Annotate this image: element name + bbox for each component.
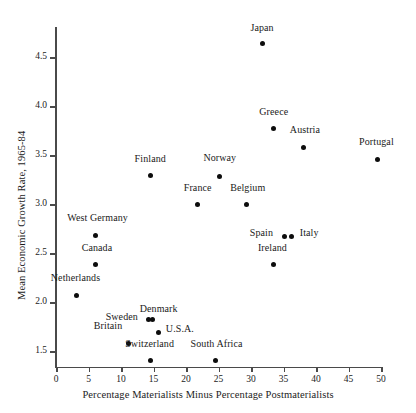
point-label-south-africa: South Africa: [191, 338, 243, 349]
x-tick-label: 35: [272, 374, 296, 384]
x-tick-label: 25: [207, 374, 231, 384]
data-point-south-africa: [213, 358, 218, 363]
y-tick-label: 1.5: [21, 345, 47, 355]
point-label-norway: Norway: [203, 152, 236, 163]
x-tick-mark: [121, 367, 123, 372]
data-point-greece: [271, 126, 276, 131]
data-point-west-germany: [93, 233, 98, 238]
scatter-plot-figure: 1.52.02.53.03.54.04.5 051015202530354045…: [0, 0, 416, 413]
x-tick-label: 0: [44, 374, 68, 384]
point-label-west-germany: West Germany: [67, 212, 128, 223]
y-tick-mark: [50, 204, 55, 206]
x-tick-mark: [349, 367, 351, 372]
y-tick-label: 4.0: [21, 100, 47, 110]
data-point-italy: [289, 234, 294, 239]
x-tick-mark: [56, 367, 58, 372]
point-label-portugal: Portugal: [359, 136, 394, 147]
point-label-france: France: [184, 182, 212, 193]
x-tick-label: 10: [109, 374, 133, 384]
point-label-greece: Greece: [259, 106, 288, 117]
x-tick-mark: [219, 367, 221, 372]
data-point-france: [195, 202, 200, 207]
y-axis-title: Mean Economic Growth Rate, 1965-84: [16, 131, 27, 300]
y-tick-mark: [50, 106, 55, 108]
x-tick-mark: [89, 367, 91, 372]
data-point-spain: [282, 234, 287, 239]
point-label-spain: Spain: [250, 227, 273, 238]
point-label-canada: Canada: [82, 242, 113, 253]
point-label-britain: Britain: [94, 320, 122, 331]
data-point-belgium: [244, 202, 249, 207]
y-tick-mark: [50, 351, 55, 353]
point-label-japan: Japan: [250, 22, 273, 33]
x-tick-label: 20: [174, 374, 198, 384]
x-tick-label: 50: [369, 374, 393, 384]
x-tick-mark: [186, 367, 188, 372]
point-label-netherlands: Netherlands: [51, 272, 100, 283]
data-point-austria: [301, 145, 306, 150]
x-tick-mark: [154, 367, 156, 372]
data-point-netherlands: [74, 293, 79, 298]
y-tick-label: 4.5: [21, 51, 47, 61]
y-tick-mark: [50, 253, 55, 255]
data-point-u-s-a: [156, 330, 161, 335]
point-label-switzerland: Switzerland: [125, 338, 174, 349]
x-axis-title: Percentage Materialists Minus Percentage…: [0, 389, 416, 400]
y-axis-line: [55, 27, 57, 368]
x-tick-mark: [316, 367, 318, 372]
x-tick-label: 5: [77, 374, 101, 384]
point-label-austria: Austria: [290, 124, 320, 135]
point-label-denmark: Denmark: [140, 303, 178, 314]
x-tick-label: 40: [304, 374, 328, 384]
point-label-belgium: Belgium: [230, 182, 265, 193]
y-tick-mark: [50, 155, 55, 157]
point-label-finland: Finland: [135, 153, 166, 164]
data-point-japan: [260, 41, 265, 46]
x-tick-label: 15: [142, 374, 166, 384]
x-tick-label: 30: [239, 374, 263, 384]
data-point-ireland: [271, 262, 276, 267]
data-point-finland: [148, 173, 153, 178]
x-tick-mark: [284, 367, 286, 372]
x-tick-label: 45: [337, 374, 361, 384]
y-tick-mark: [50, 57, 55, 59]
point-label-ireland: Ireland: [258, 242, 287, 253]
x-tick-mark: [251, 367, 253, 372]
data-point-portugal: [375, 157, 380, 162]
data-point-denmark: [150, 317, 155, 322]
data-point-norway: [217, 174, 222, 179]
point-label-italy: Italy: [300, 227, 319, 238]
x-tick-mark: [381, 367, 383, 372]
point-label-u-s-a: U.S.A.: [166, 323, 194, 334]
y-tick-mark: [50, 302, 55, 304]
data-point-switzerland: [148, 358, 153, 363]
data-point-canada: [93, 262, 98, 267]
